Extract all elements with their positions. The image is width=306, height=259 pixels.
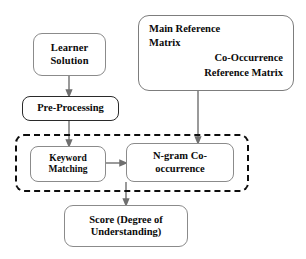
node-pre-processing-label: Pre-Processing bbox=[37, 102, 104, 114]
node-learner-solution[interactable]: Learner Solution bbox=[33, 33, 106, 76]
node-reference-matrix[interactable]: Main Reference Matrix Co-Occurrence Refe… bbox=[138, 15, 294, 91]
node-score-label: Score (Degree of Understanding) bbox=[89, 214, 163, 238]
node-pre-processing[interactable]: Pre-Processing bbox=[22, 96, 119, 121]
node-score[interactable]: Score (Degree of Understanding) bbox=[64, 205, 188, 247]
node-main-reference-matrix-label: Main Reference Matrix bbox=[145, 22, 287, 50]
flowchart-canvas: Learner Solution Pre-Processing Main Ref… bbox=[0, 0, 306, 259]
node-keyword-matching-label: Keyword Matching bbox=[48, 153, 87, 175]
node-ngram-cooccurrence[interactable]: N-gram Co- occurrence bbox=[126, 143, 234, 182]
node-co-occurrence-reference-matrix-label: Co-Occurrence Reference Matrix bbox=[145, 51, 287, 79]
node-keyword-matching[interactable]: Keyword Matching bbox=[30, 146, 106, 182]
node-learner-solution-label: Learner Solution bbox=[50, 42, 88, 66]
node-ngram-cooccurrence-label: N-gram Co- occurrence bbox=[153, 150, 207, 174]
